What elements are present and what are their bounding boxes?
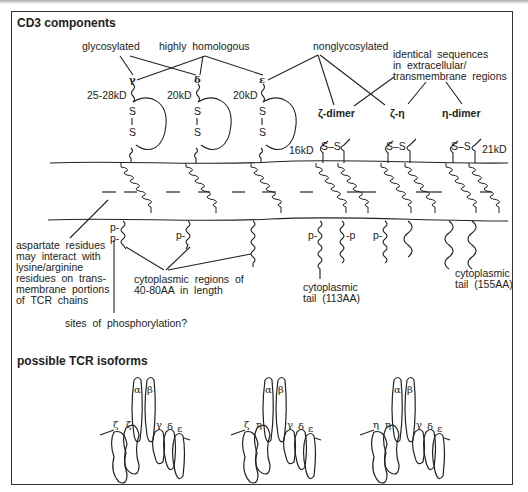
isoform-label: δ [298, 421, 304, 433]
isoform-label: α [265, 384, 272, 396]
isoform-label: β [407, 384, 413, 396]
isoform-label: ζ [126, 419, 131, 431]
chain-epsilon: ε [259, 74, 265, 86]
isoform-label: β [278, 384, 284, 396]
isoform-label: ε [308, 423, 313, 435]
isoform-label: γ [156, 419, 162, 431]
isoform-label: γ [416, 419, 422, 431]
disulfide-s: S [259, 127, 266, 139]
label-identical-3: transmembrane regions [393, 71, 507, 83]
chain-delta: δ [194, 74, 201, 86]
phospho-p: p- [110, 233, 119, 245]
chain-eta-dimer: η-dimer [442, 108, 481, 120]
phospho-p: p- [308, 230, 317, 242]
label-nonglycosylated: nonglycosylated [313, 41, 388, 53]
disulfide-s: S [129, 106, 136, 118]
isoform-label: η [385, 419, 391, 431]
label-glycosylated: glycosylated [82, 41, 140, 53]
label-highly-homologous: highly homologous [159, 41, 249, 53]
disulfide-ss-zeta-eta: S–S [386, 141, 406, 153]
weight-eta: 21kD [482, 144, 507, 156]
tcr-isoforms-title: possible TCR isoforms [17, 356, 148, 368]
isoform-label: β [147, 384, 153, 396]
chain-zeta-dimer: ζ-dimer [318, 108, 355, 120]
disulfide-s: S [194, 106, 201, 118]
isoform-label: γ [287, 419, 293, 431]
annotation-phospho-sites: sites of phosphorylation? [65, 318, 187, 330]
isoform-label: δ [427, 421, 433, 433]
ecto-loops [130, 84, 297, 163]
chain-zeta-eta: ζ-η [390, 108, 405, 120]
annotation-tail155-2: tail (155AA) [455, 279, 513, 291]
cytoplasmic-tails [121, 221, 476, 279]
weight-epsilon: 20kD [233, 90, 258, 102]
weight-zeta: 16kD [289, 145, 314, 157]
membrane [48, 161, 508, 221]
isoform-label: α [394, 384, 401, 396]
disulfide-ss-zeta: S–S [321, 141, 341, 153]
isoform-label: α [134, 384, 141, 396]
isoform-label: ε [437, 423, 442, 435]
isoform-label: δ [167, 421, 173, 433]
disulfide-ss-eta: S–S [451, 141, 471, 153]
cd3-components-title: CD3 components [17, 18, 116, 30]
disulfide-s: S [129, 127, 136, 139]
chain-gamma: γ [129, 74, 136, 86]
annotation-tail113-2: tail (113AA) [303, 293, 360, 305]
annotation-cyto-regions-2: 40-80AA in length [134, 285, 223, 297]
phospho-p: -p [346, 230, 355, 242]
disulfide-s: S [259, 106, 266, 118]
tm-helices [121, 163, 499, 213]
weight-delta: 20kD [167, 90, 192, 102]
annotation-aspartate-6: of TCR chains [16, 295, 88, 307]
phospho-p: p- [176, 230, 185, 242]
disulfide-s: S [194, 127, 201, 139]
phospho-p: p- [373, 230, 382, 242]
isoform-label: ζ [113, 419, 118, 431]
isoform-label: ε [177, 423, 182, 435]
isoform-label: η [373, 419, 379, 431]
weight-gamma: 25-28kD [87, 90, 127, 102]
isoform-label: η [256, 419, 262, 431]
isoform-label: ζ [244, 419, 249, 431]
